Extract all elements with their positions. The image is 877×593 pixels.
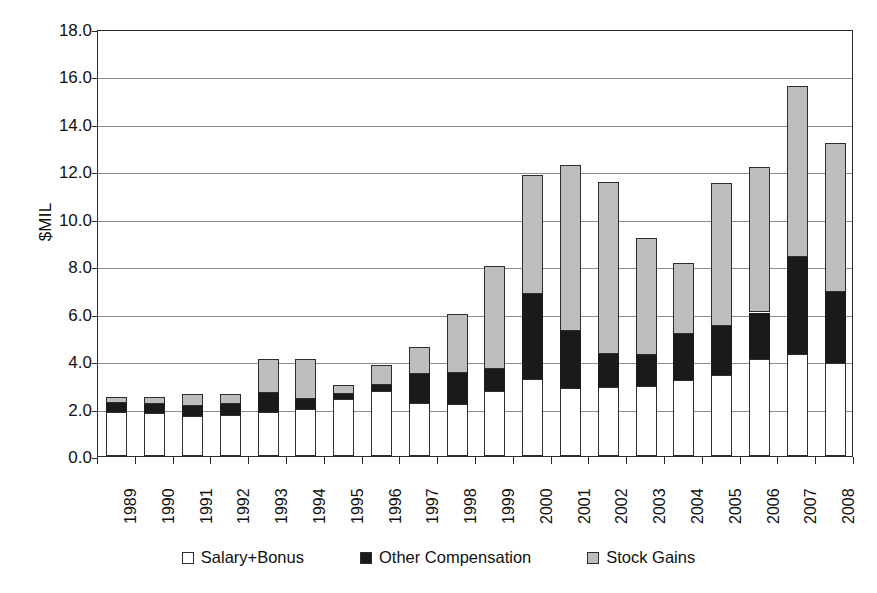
plot-area: [97, 30, 853, 457]
y-axis-tick-labels: 18.016.014.012.010.08.06.04.02.00.0: [12, 0, 92, 593]
bar-segment: [598, 182, 619, 354]
x-axis-tick-label: 1989: [123, 454, 139, 524]
bar-segment: [258, 393, 279, 412]
legend-item[interactable]: Salary+Bonus: [182, 548, 304, 567]
y-axis-tick-label: 14.0: [44, 117, 92, 134]
bar-segment: [220, 415, 241, 457]
bar-group: [220, 29, 241, 456]
bar-segment: [182, 394, 203, 406]
bar-group: [598, 29, 619, 456]
x-axis-tick-label: 1994: [312, 454, 328, 524]
bar-group: [522, 29, 543, 456]
x-axis-tick-label: 2008: [841, 454, 857, 524]
bar-segment: [749, 313, 770, 359]
y-axis-tick-label: 16.0: [44, 69, 92, 86]
bar-group: [484, 29, 505, 456]
bar-group: [295, 29, 316, 456]
bar-segment: [787, 354, 808, 456]
x-axis-tick-label: 2006: [766, 454, 782, 524]
bar-segment: [182, 406, 203, 415]
bar-segment: [447, 404, 468, 456]
bar-segment: [636, 355, 657, 386]
legend-swatch-icon: [182, 552, 194, 564]
bar-group: [825, 29, 846, 456]
bar-segment: [711, 183, 732, 325]
bar-segment: [787, 257, 808, 354]
legend-item-label: Salary+Bonus: [201, 548, 304, 567]
y-axis-tick-label: 6.0: [44, 307, 92, 324]
y-axis-tick-label: 0.0: [44, 449, 92, 466]
bar-segment: [484, 266, 505, 369]
bar-segment: [484, 391, 505, 456]
bar-segment: [295, 409, 316, 456]
bar-segment: [560, 165, 581, 331]
x-axis-tick-label: 2001: [577, 454, 593, 524]
bar-segment: [522, 294, 543, 379]
bar-segment: [825, 363, 846, 456]
legend-swatch-icon: [587, 552, 599, 564]
bar-segment: [220, 394, 241, 403]
bar-segment: [371, 391, 392, 456]
bar-group: [333, 29, 354, 456]
bar-segment: [106, 403, 127, 412]
bar-segment: [333, 385, 354, 394]
x-axis-tick-label: 1997: [425, 454, 441, 524]
bar-segment: [673, 380, 694, 456]
x-axis-tick-label: 2005: [728, 454, 744, 524]
bar-segment: [258, 359, 279, 393]
bar-segment: [749, 359, 770, 456]
bar-group: [711, 29, 732, 456]
x-axis-tick-label: 2007: [803, 454, 819, 524]
x-axis-tick-label: 1996: [388, 454, 404, 524]
x-axis-tick-label: 1999: [501, 454, 517, 524]
bar-segment: [333, 394, 354, 399]
bar-segment: [333, 399, 354, 456]
legend-item-label: Other Compensation: [379, 548, 531, 567]
bar-segment: [636, 386, 657, 456]
y-axis-tick-label: 8.0: [44, 259, 92, 276]
legend-item-label: Stock Gains: [606, 548, 695, 567]
bar-segment: [295, 399, 316, 408]
bar-segment: [258, 412, 279, 456]
x-axis-tick-label: 2004: [690, 454, 706, 524]
bar-segment: [825, 143, 846, 292]
x-axis-tick-label: 1991: [199, 454, 215, 524]
bar-segment: [447, 373, 468, 404]
bar-segment: [106, 397, 127, 403]
legend-item[interactable]: Other Compensation: [360, 548, 531, 567]
bar-group: [182, 29, 203, 456]
bar-segment: [409, 403, 430, 456]
chart-legend: Salary+BonusOther CompensationStock Gain…: [0, 548, 877, 567]
bar-segment: [220, 404, 241, 415]
bar-segment: [182, 416, 203, 456]
x-axis-tick-label: 2000: [539, 454, 555, 524]
bar-segment: [295, 359, 316, 399]
bar-segment: [749, 167, 770, 313]
bar-segment: [673, 263, 694, 334]
legend-swatch-icon: [360, 552, 372, 564]
bar-segment: [598, 354, 619, 387]
bar-segment: [522, 379, 543, 456]
bar-segment: [484, 369, 505, 390]
bar-segment: [636, 238, 657, 355]
bar-segment: [522, 175, 543, 294]
bar-group: [258, 29, 279, 456]
bar-segment: [560, 331, 581, 388]
bar-group: [560, 29, 581, 456]
x-axis-tick-label: 1990: [161, 454, 177, 524]
x-axis-tick-label: 1995: [350, 454, 366, 524]
bar-group: [106, 29, 127, 456]
x-axis-tick-label: 2003: [652, 454, 668, 524]
bar-segment: [144, 404, 165, 413]
bar-segment: [371, 365, 392, 385]
bar-segment: [560, 388, 581, 456]
x-axis-tick-label: 1993: [274, 454, 290, 524]
bar-group: [144, 29, 165, 456]
bar-segment: [787, 86, 808, 257]
bars-layer: [98, 31, 852, 456]
bar-segment: [825, 292, 846, 363]
legend-item[interactable]: Stock Gains: [587, 548, 695, 567]
x-axis-tick-label: 2002: [614, 454, 630, 524]
y-axis-tick-label: 18.0: [44, 22, 92, 39]
y-axis-tick-label: 2.0: [44, 402, 92, 419]
